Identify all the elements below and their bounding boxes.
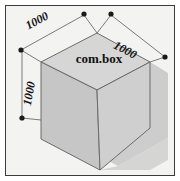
box-name-label: com.box [63, 51, 135, 67]
extension-bottom-left [22, 118, 41, 120]
marker-apex-left [81, 11, 86, 16]
extension-top-apex-left [84, 15, 97, 33]
marker-right-end [162, 54, 167, 59]
marker-left-bottom [19, 115, 24, 120]
marker-left-top [18, 47, 23, 52]
marker-apex-right [108, 11, 113, 16]
extension-left-upper [21, 50, 41, 62]
box-dimension-figure: 1000 1000 1000 com.box [0, 0, 180, 181]
extension-top-apex-right [97, 15, 111, 33]
